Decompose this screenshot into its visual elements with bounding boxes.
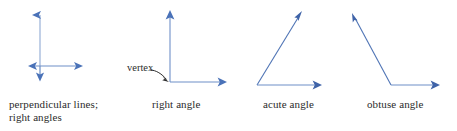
caption-right-angle: right angle [152,98,200,111]
caption-obtuse-angle: obtuse angle [367,98,424,111]
figure-obtuse-angle [0,0,457,95]
caption-line-1: perpendicular lines; [9,98,98,111]
caption-acute-angle: acute angle [263,98,314,111]
caption-line-2: right angles [9,111,98,124]
vertex-annotation-label: vertex [127,62,153,73]
caption-perpendicular-lines: perpendicular lines; right angles [9,98,98,124]
figure-sheet: vertex perpendicular lines; right angles… [0,0,457,131]
obtuse-angle-drawing [0,0,457,95]
obtuse-angle-diagonal-ray [356,19,392,85]
